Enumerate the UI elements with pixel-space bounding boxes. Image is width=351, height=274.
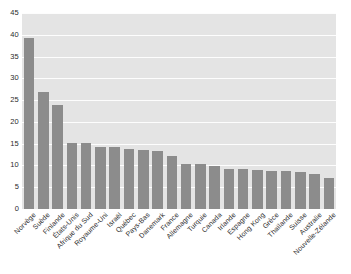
bar [38,92,49,209]
y-axis-tick-label: 30 [10,74,19,82]
bar [167,156,178,209]
bar [209,166,220,209]
bar [67,143,78,209]
plot-area [22,13,336,209]
bar [24,38,35,209]
bar [324,178,335,209]
bar [152,151,163,209]
y-axis-tick-label: 20 [10,118,19,126]
bars-layer [22,13,336,209]
y-axis-tick-label: 10 [10,161,19,169]
bar [95,147,106,209]
y-axis-tick-label: 15 [10,140,19,148]
bar [181,164,192,209]
x-axis: NorvègeSuèdeFinlandeÉtats-UnisAfrique du… [22,209,351,274]
bar-chart: 454035302520151050 NorvègeSuèdeFinlandeÉ… [0,0,351,274]
bar [138,150,149,209]
bar [295,172,306,209]
y-axis-tick-label: 40 [10,31,19,39]
bar [81,143,92,209]
bar [109,147,120,209]
bar [124,149,135,209]
y-axis-tick-label: 45 [10,9,19,17]
bar [309,174,320,209]
bar [266,171,277,209]
y-axis-tick-label: 0 [15,205,19,213]
bar [52,105,63,209]
bar [252,170,263,209]
bar [195,164,206,209]
bar [281,171,292,209]
bar [238,169,249,209]
y-axis-tick-label: 35 [10,53,19,61]
bar [224,169,235,209]
y-axis-tick-label: 25 [10,96,19,104]
y-axis-tick-label: 5 [15,183,19,191]
